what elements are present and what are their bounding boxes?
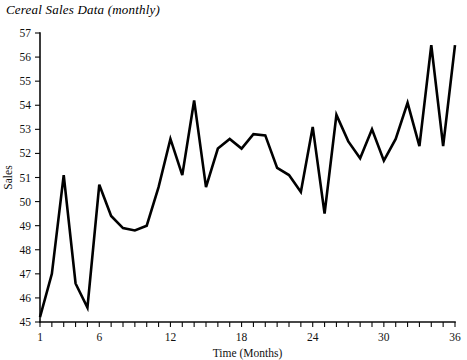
data-line bbox=[40, 45, 455, 317]
y-tick-label: 53 bbox=[20, 123, 32, 135]
y-axis: 45464748495051525354555657 bbox=[20, 27, 41, 328]
y-tick-label: 56 bbox=[20, 51, 32, 63]
y-tick-label: 46 bbox=[20, 292, 32, 304]
y-tick-label: 51 bbox=[20, 172, 32, 184]
cereal-sales-chart: Cereal Sales Data (monthly) 454647484950… bbox=[0, 0, 467, 360]
x-axis: 161218243036 bbox=[37, 322, 461, 343]
x-tick-label: 1 bbox=[37, 331, 43, 343]
x-tick-label: 36 bbox=[449, 331, 461, 343]
x-tick-label: 12 bbox=[165, 331, 177, 343]
y-tick-label: 45 bbox=[20, 316, 32, 328]
x-tick-label: 30 bbox=[378, 331, 390, 343]
x-axis-title: Time (Months) bbox=[213, 347, 283, 360]
y-axis-title: Sales bbox=[2, 165, 14, 190]
chart-plot-area: 45464748495051525354555657 161218243036 … bbox=[0, 0, 467, 360]
y-tick-label: 57 bbox=[20, 27, 32, 39]
y-tick-label: 48 bbox=[20, 244, 32, 256]
y-tick-label: 55 bbox=[20, 75, 32, 87]
data-series-group bbox=[40, 45, 455, 317]
x-tick-label: 6 bbox=[96, 331, 102, 343]
x-tick-label: 18 bbox=[236, 331, 248, 343]
y-tick-label: 52 bbox=[20, 147, 32, 159]
y-tick-label: 54 bbox=[20, 99, 32, 111]
y-tick-label: 49 bbox=[20, 220, 32, 232]
y-tick-label: 50 bbox=[20, 196, 32, 208]
x-tick-label: 24 bbox=[307, 331, 319, 343]
y-tick-label: 47 bbox=[20, 268, 32, 280]
